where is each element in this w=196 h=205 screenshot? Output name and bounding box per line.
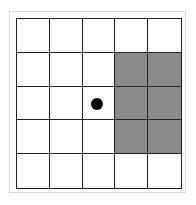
grid-cell xyxy=(83,19,116,53)
grid-cell xyxy=(50,87,83,121)
grid-cell xyxy=(115,154,148,188)
grid-cell xyxy=(17,87,50,121)
grid-cell-shaded xyxy=(115,120,148,154)
grid-cell xyxy=(83,120,116,154)
grid-cell xyxy=(50,19,83,53)
grid-cell xyxy=(50,120,83,154)
grid-cell-shaded xyxy=(115,53,148,87)
grid-cell-shaded xyxy=(148,87,181,121)
grid-cell-shaded xyxy=(148,53,181,87)
grid-cell-shaded xyxy=(115,87,148,121)
grid-cell xyxy=(115,19,148,53)
grid-cell xyxy=(17,154,50,188)
grid-cell xyxy=(17,19,50,53)
grid-cell xyxy=(50,53,83,87)
grid-cell xyxy=(17,53,50,87)
grid-cell-shaded xyxy=(148,120,181,154)
grid-cell xyxy=(148,19,181,53)
grid-cell xyxy=(83,154,116,188)
grid-cell xyxy=(17,120,50,154)
grid-cell xyxy=(83,53,116,87)
marker-dot xyxy=(91,98,103,110)
grid-cell xyxy=(148,154,181,188)
grid-cell xyxy=(50,154,83,188)
